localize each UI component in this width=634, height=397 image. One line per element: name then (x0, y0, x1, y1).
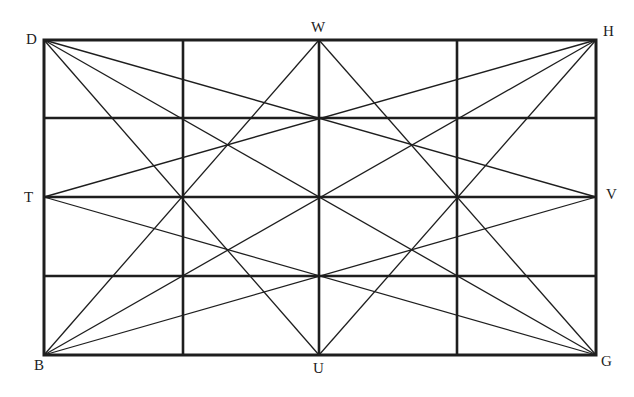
label-v: V (606, 186, 617, 202)
label-h: H (603, 23, 614, 39)
label-u: U (313, 360, 324, 376)
label-d: D (26, 31, 37, 47)
label-b: B (34, 357, 44, 373)
diagram-canvas: D W H T V B U G (0, 0, 634, 397)
label-t: T (24, 189, 33, 205)
label-g: G (601, 353, 612, 369)
geometry-diagram: D W H T V B U G (0, 0, 634, 397)
label-w: W (311, 19, 326, 35)
